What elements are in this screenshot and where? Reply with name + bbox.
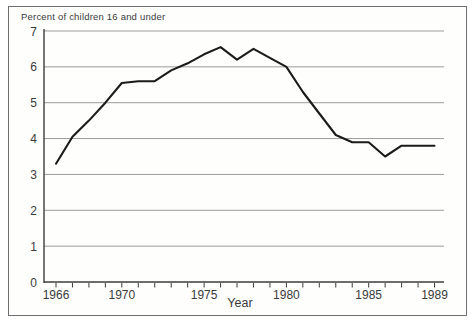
x-tick-label: 1980 bbox=[273, 288, 300, 302]
y-tick-label: 1 bbox=[30, 240, 37, 254]
x-axis-label: Year bbox=[215, 296, 265, 310]
y-tick-label: 3 bbox=[30, 168, 37, 182]
y-tick-label: 6 bbox=[30, 60, 37, 74]
line-plot: 01234567196619701975198019851989 bbox=[0, 0, 475, 328]
data-series-line bbox=[56, 47, 435, 164]
y-tick-label: 5 bbox=[30, 96, 37, 110]
y-tick-label: 2 bbox=[30, 204, 37, 218]
y-tick-label: 7 bbox=[30, 25, 37, 39]
x-tick-label: 1989 bbox=[421, 288, 448, 302]
x-tick-label: 1970 bbox=[108, 288, 135, 302]
x-tick-label: 1985 bbox=[355, 288, 382, 302]
x-tick-label: 1966 bbox=[43, 288, 70, 302]
x-tick-label: 1975 bbox=[191, 288, 218, 302]
y-tick-label: 0 bbox=[30, 276, 37, 290]
y-tick-label: 4 bbox=[30, 132, 37, 146]
